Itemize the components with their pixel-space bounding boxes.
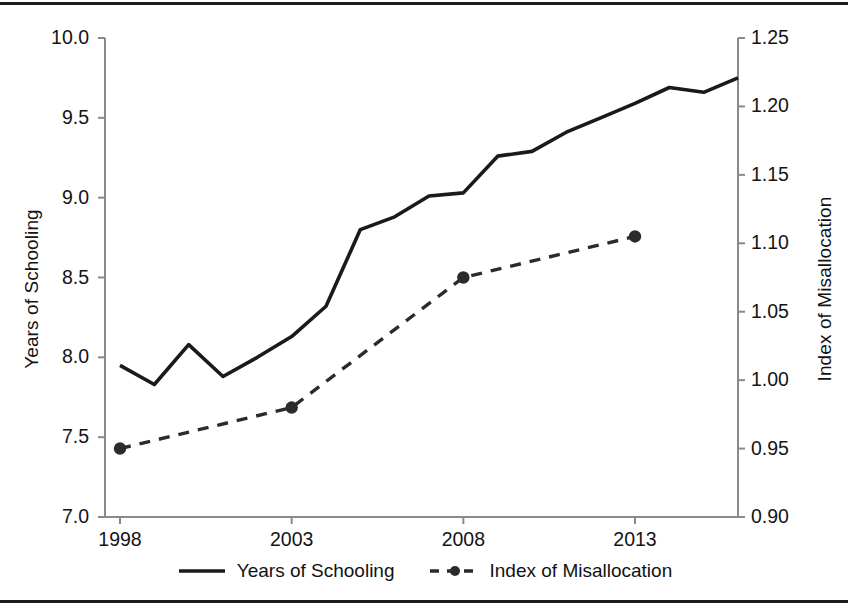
legend-solid-line-icon <box>176 562 228 580</box>
series-marker-index-of-misallocation <box>114 442 126 454</box>
series-marker-index-of-misallocation <box>457 271 469 283</box>
series-marker-index-of-misallocation <box>629 230 641 242</box>
chart-figure: Years of Schooling Index of Misallocatio… <box>0 0 848 616</box>
y-axis-left-tick-label: 8.5 <box>27 266 89 289</box>
y-axis-left-tick-label: 10.0 <box>27 26 89 49</box>
series-marker-index-of-misallocation <box>285 401 297 413</box>
plot-area <box>0 0 848 616</box>
x-axis-tick-label: 2003 <box>252 528 332 551</box>
x-axis-tick-label: 2013 <box>595 528 675 551</box>
chart-legend: Years of SchoolingIndex of Misallocation <box>0 560 848 582</box>
y-axis-left-tick-label: 9.5 <box>27 106 89 129</box>
y-axis-left-tick-label: 8.0 <box>27 345 89 368</box>
series-line-index-of-misallocation <box>120 236 635 448</box>
y-axis-right-tick-label: 0.95 <box>751 437 821 460</box>
legend-dashed-line-icon <box>429 562 481 580</box>
legend-label: Years of Schooling <box>237 560 395 582</box>
y-axis-right-tick-label: 1.25 <box>751 26 821 49</box>
series-line-years-of-schooling <box>120 78 738 385</box>
x-axis-tick-label: 2008 <box>423 528 503 551</box>
y-axis-right-tick-label: 0.90 <box>751 505 821 528</box>
y-axis-right-tick-label: 1.20 <box>751 94 821 117</box>
y-axis-right-tick-label: 1.05 <box>751 300 821 323</box>
legend-label: Index of Misallocation <box>490 560 673 582</box>
y-axis-right-tick-label: 1.10 <box>751 231 821 254</box>
legend-item-index-of-misallocation: Index of Misallocation <box>429 560 673 582</box>
y-axis-right-tick-label: 1.00 <box>751 368 821 391</box>
y-axis-left-tick-label: 7.0 <box>27 505 89 528</box>
y-axis-left-tick-label: 9.0 <box>27 186 89 209</box>
y-axis-left-tick-label: 7.5 <box>27 425 89 448</box>
legend-item-years-of-schooling: Years of Schooling <box>176 560 395 582</box>
y-axis-right-tick-label: 1.15 <box>751 163 821 186</box>
x-axis-tick-label: 1998 <box>80 528 160 551</box>
